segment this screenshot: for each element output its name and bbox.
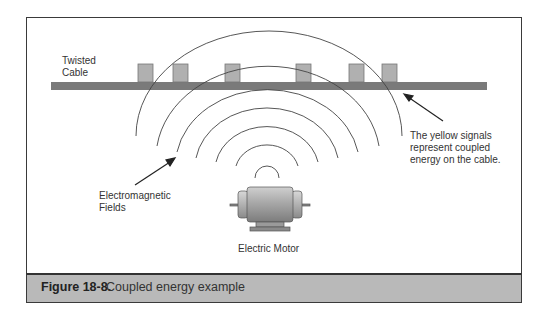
field-arc xyxy=(177,90,358,152)
electromagnetic-field-arcs xyxy=(136,31,402,178)
signal-box xyxy=(225,64,240,82)
field-arc xyxy=(157,66,379,146)
twisted-cable-label-line2: Cable xyxy=(62,67,96,79)
electromagnetic-fields-label-line1: Electromagnetic xyxy=(99,190,171,202)
twisted-cable-label-line1: Twisted xyxy=(62,55,96,67)
field-arc xyxy=(255,166,279,178)
signal-box xyxy=(382,64,397,82)
coupled-signals-label-line1: The yellow signals xyxy=(410,130,501,142)
field-arc xyxy=(196,108,338,158)
electromagnetic-fields-label: Electromagnetic Fields xyxy=(99,190,171,214)
fields-arrow-head xyxy=(166,158,175,166)
coupled-signals-label: The yellow signals represent coupled ene… xyxy=(410,130,501,166)
field-arc xyxy=(216,127,318,162)
coupled-signals-label-line2: represent coupled xyxy=(410,142,501,154)
coupled-signals-label-line3: energy on the cable. xyxy=(410,154,501,166)
twisted-cable xyxy=(51,82,487,90)
signal-box xyxy=(173,64,188,82)
twisted-cable-label: Twisted Cable xyxy=(62,55,96,79)
signal-box xyxy=(296,64,311,82)
field-arc xyxy=(236,145,298,166)
fields-arrow-line xyxy=(135,162,170,185)
figure-caption: Coupled energy example xyxy=(106,280,245,294)
figure-number: Figure 18-8. xyxy=(41,280,111,294)
electric-motor-icon xyxy=(230,187,310,231)
electromagnetic-fields-label-line2: Fields xyxy=(99,202,171,214)
signals-arrow-line xyxy=(408,97,443,121)
signal-box xyxy=(138,64,153,82)
signal-box xyxy=(349,64,364,82)
electric-motor-label: Electric Motor xyxy=(238,243,299,255)
